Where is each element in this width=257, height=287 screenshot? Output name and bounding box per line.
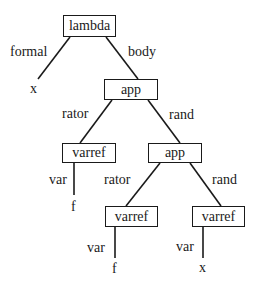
edge-label-var-2: var	[87, 241, 105, 255]
node-varref-rator: varref	[62, 143, 116, 163]
edge-label-rand-2: rand	[212, 173, 237, 187]
edge-label-rator-2: rator	[104, 173, 130, 187]
leaf-x-formal: x	[30, 82, 37, 96]
edge-rator-2	[126, 163, 160, 206]
edge-label-formal: formal	[10, 45, 47, 59]
node-varref-inner-rator: varref	[105, 206, 158, 227]
node-varref-inner-rand: varref	[192, 206, 245, 227]
node-app-rand: app	[148, 143, 202, 163]
edge-label-body: body	[128, 45, 156, 59]
node-app-body: app	[104, 79, 158, 100]
edge-label-var-1: var	[49, 173, 67, 187]
edge-label-var-3: var	[176, 240, 194, 254]
edge-label-rator-1: rator	[62, 107, 88, 121]
leaf-f-2: f	[112, 262, 117, 276]
edge-label-rand-1: rand	[169, 108, 194, 122]
leaf-x-2: x	[199, 261, 206, 275]
leaf-f-1: f	[71, 200, 76, 214]
node-lambda: lambda	[63, 15, 116, 37]
